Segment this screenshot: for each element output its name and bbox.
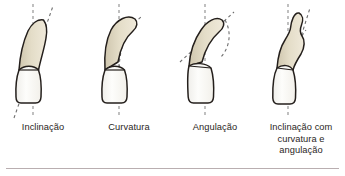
tooth-root (189, 19, 224, 66)
tooth-illustration-curvatura (86, 0, 172, 120)
panel-angulacao: Angulação (172, 0, 258, 176)
panel-label-inclinacao: Inclinação (0, 122, 86, 134)
tooth-root (19, 20, 47, 70)
panel-label-combinado-line-1: Inclinação com (253, 122, 345, 134)
tooth-crown (16, 66, 41, 103)
bottom-divider-rule (6, 168, 339, 169)
tooth-root (105, 17, 137, 70)
panel-label-curvatura: Curvatura (86, 122, 172, 134)
panel-inclinacao: Inclinação (0, 0, 86, 176)
panel-curvatura: Curvatura (86, 0, 172, 176)
tooth-crown (273, 66, 296, 104)
dental-root-position-figure: Inclinação (0, 0, 345, 176)
panel-label-angulacao: Angulação (172, 122, 258, 134)
tooth-crown (188, 64, 214, 103)
tooth-illustration-inclinacao (0, 0, 86, 120)
panel-label-combinado: Inclinação com curvatura e angulação (253, 122, 345, 157)
tooth-illustration-combinado (258, 0, 344, 120)
panel-label-combinado-line-2: curvatura e (253, 134, 345, 146)
tooth-illustration-angulacao (172, 0, 258, 120)
panel-combinado: Inclinação com curvatura e angulação (258, 0, 344, 176)
tooth-crown (102, 66, 127, 103)
tooth-root (277, 13, 304, 70)
panel-label-combinado-line-3: angulação (253, 145, 345, 157)
